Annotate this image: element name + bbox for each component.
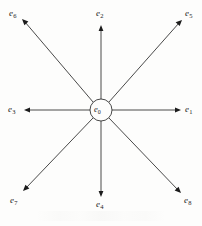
node-subscript-e2: 2 xyxy=(100,12,103,19)
node-label-e5: e5 xyxy=(185,9,192,18)
node-label-e1: e1 xyxy=(185,105,192,114)
node-label-e6: e6 xyxy=(9,9,16,18)
star-graph-figure: e0 e1 e2 e3 e4 e5 e6 e7 e8 xyxy=(0,0,202,226)
arrowhead-e4 xyxy=(99,191,104,197)
spoke-line-e6 xyxy=(25,22,93,102)
scan-artifact xyxy=(36,211,166,221)
node-label-e3: e3 xyxy=(8,105,15,114)
node-label-e2: e2 xyxy=(96,9,103,18)
center-node-label: e0 xyxy=(94,105,101,114)
node-subscript-e6: 6 xyxy=(13,12,16,19)
arrowhead-e3 xyxy=(24,108,30,113)
spoke-line-e7 xyxy=(26,118,93,188)
node-subscript-e1: 1 xyxy=(189,108,192,115)
arrowhead-e1 xyxy=(175,108,181,113)
node-label-e7: e7 xyxy=(10,196,17,205)
arrowhead-e5 xyxy=(176,20,182,26)
center-node-subscript: 0 xyxy=(98,109,101,115)
star-graph-canvas xyxy=(0,0,202,226)
node-subscript-e5: 5 xyxy=(189,12,192,19)
spoke-line-e8 xyxy=(109,118,178,190)
spoke-line-e5 xyxy=(109,23,179,102)
node-label-e8: e8 xyxy=(184,196,191,205)
node-label-e4: e4 xyxy=(96,200,103,209)
node-subscript-e4: 4 xyxy=(100,203,103,210)
node-subscript-e3: 3 xyxy=(12,108,15,115)
arrowhead-e2 xyxy=(99,25,104,31)
node-subscript-e8: 8 xyxy=(188,199,191,206)
node-subscript-e7: 7 xyxy=(14,199,17,206)
